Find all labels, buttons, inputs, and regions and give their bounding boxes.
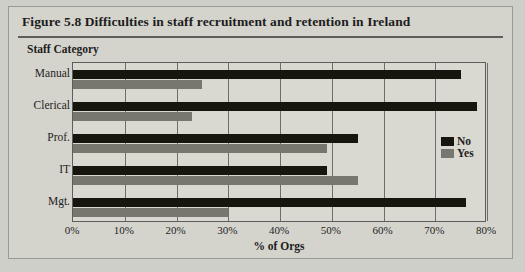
category-label: Manual [12,67,70,79]
group-axis-title: Staff Category [27,43,99,55]
x-axis-tick: 70% [424,224,444,236]
bar-yes [73,176,358,185]
x-axis-tick: 60% [372,224,392,236]
title-divider [18,36,503,38]
bar-yes [73,112,192,121]
x-axis-tick: 20% [165,224,185,236]
bar-yes [73,144,327,153]
gridline [487,63,488,221]
category-label: IT [12,163,70,175]
plot-area: NoYes [72,62,486,222]
chart-legend: NoYes [441,136,474,160]
x-axis-title: % of Orgs [72,240,486,252]
x-axis-tick: 30% [217,224,237,236]
figure-container: Figure 5.8 Difficulties in staff recruit… [8,6,513,259]
bar-yes [73,80,202,89]
category-axis-labels: ManualClericalProf.ITMgt. [9,62,70,222]
bar-group [73,191,485,223]
bar-group [73,159,485,191]
bar-no [73,70,461,79]
x-axis-tick: 0% [65,224,80,236]
x-axis-tick: 10% [114,224,134,236]
bar-group [73,95,485,127]
bar-yes [73,208,228,217]
category-label: Prof. [12,131,70,143]
x-axis-tick: 50% [321,224,341,236]
category-label: Clerical [12,99,70,111]
legend-item: No [441,136,474,147]
legend-item: Yes [441,148,474,159]
legend-label: Yes [457,148,474,159]
legend-label: No [457,136,471,147]
x-axis-tick: 80% [476,224,496,236]
bar-group [73,63,485,95]
legend-swatch [441,137,454,146]
legend-swatch [441,149,454,158]
category-label: Mgt. [12,195,70,207]
bar-no [73,198,466,207]
figure-title: Figure 5.8 Difficulties in staff recruit… [22,14,502,30]
bar-no [73,166,327,175]
x-axis-tick: 40% [269,224,289,236]
bar-no [73,134,358,143]
x-axis-tick-labels: 0%10%20%30%40%50%60%70%80% [72,224,486,240]
bar-group [73,127,485,159]
bar-no [73,102,477,111]
